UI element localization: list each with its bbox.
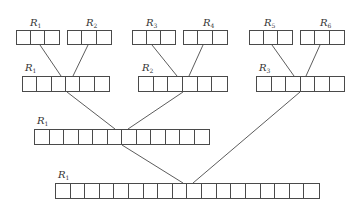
run-cell (158, 184, 173, 198)
run-cell (133, 31, 147, 44)
merge-edge-l1-r5-to-l2-r3 (272, 45, 294, 76)
run-label-subscript: 5 (272, 22, 276, 29)
run-cell (286, 77, 301, 91)
run-box-l2-r2 (138, 76, 228, 92)
run-box-l2-r3 (256, 76, 345, 92)
run-cell (184, 31, 198, 44)
run-label-l1-r3: R3 (146, 18, 157, 29)
run-label-letter: R (203, 17, 211, 28)
run-cell (301, 77, 316, 91)
run-box-l4-r1 (55, 183, 320, 199)
merge-edge-l1-r4-to-l2-r2 (189, 45, 203, 76)
merge-tree-diagram: R1R2R3R4R5R6R1R2R3R1R1 (0, 0, 357, 219)
merge-edge-l1-r1-to-l2-r1 (40, 45, 61, 76)
run-cell (64, 130, 79, 144)
run-label-l2-r2: R2 (142, 63, 153, 74)
run-label-letter: R (142, 62, 150, 73)
merge-edge-l1-r2-to-l2-r1 (73, 45, 88, 76)
run-label-l4-r1: R1 (58, 170, 69, 181)
run-cell (195, 130, 210, 144)
run-cell (304, 184, 319, 198)
run-cell (173, 184, 188, 198)
run-cell (261, 184, 276, 198)
run-cell (35, 130, 50, 144)
run-label-letter: R (25, 62, 33, 73)
run-box-l1-r1 (16, 30, 60, 45)
run-cell (213, 31, 227, 44)
run-cell (31, 31, 45, 44)
run-label-subscript: 1 (66, 174, 70, 181)
run-cell (37, 77, 51, 91)
run-label-subscript: 2 (150, 67, 154, 74)
run-box-l2-r1 (22, 76, 110, 92)
run-cell (85, 184, 100, 198)
merge-edge-l1-r3-to-l2-r2 (152, 45, 177, 76)
run-cell (97, 31, 111, 44)
run-cell (147, 31, 161, 44)
run-cell (264, 31, 278, 44)
run-label-subscript: 2 (94, 22, 98, 29)
run-cell (257, 77, 272, 91)
run-cell (212, 77, 227, 91)
run-cell (82, 31, 96, 44)
run-cell (290, 184, 305, 198)
run-label-letter: R (259, 62, 267, 73)
run-cell (272, 77, 287, 91)
run-label-subscript: 1 (33, 67, 37, 74)
run-cell (122, 130, 137, 144)
run-cell (217, 184, 232, 198)
run-label-letter: R (320, 17, 328, 28)
run-cell (187, 184, 202, 198)
run-box-l1-r3 (132, 30, 176, 45)
run-label-l3-r1: R1 (37, 116, 48, 127)
run-label-l2-r3: R3 (259, 63, 270, 74)
run-box-l1-r4 (183, 30, 228, 45)
merge-edge-l2-r1-to-l3-r1 (67, 92, 115, 129)
run-cell (315, 31, 329, 44)
run-label-subscript: 3 (154, 22, 158, 29)
run-label-l1-r1: R1 (30, 18, 41, 29)
run-cell (151, 130, 166, 144)
run-cell (80, 77, 94, 91)
run-label-letter: R (86, 17, 94, 28)
run-box-l1-r2 (67, 30, 112, 45)
run-cell (23, 77, 37, 91)
run-cell (56, 184, 71, 198)
run-cell (330, 31, 344, 44)
run-label-letter: R (58, 169, 66, 180)
run-cell (180, 130, 195, 144)
run-label-letter: R (30, 17, 38, 28)
run-cell (154, 77, 169, 91)
merge-edge-l2-r2-to-l3-r1 (128, 92, 183, 129)
run-cell (45, 31, 59, 44)
run-cell (137, 130, 152, 144)
run-cell (50, 130, 65, 144)
merge-edge-l3-r1-to-l4-r1 (122, 145, 183, 183)
run-cell (108, 130, 123, 144)
run-cell (168, 77, 183, 91)
run-label-l1-r6: R6 (320, 18, 331, 29)
run-cell (66, 77, 80, 91)
run-label-l1-r5: R5 (264, 18, 275, 29)
run-cell (250, 31, 264, 44)
run-label-subscript: 1 (38, 22, 42, 29)
run-label-subscript: 4 (211, 22, 215, 29)
run-cell (198, 31, 212, 44)
run-cell (231, 184, 246, 198)
run-cell (68, 31, 82, 44)
run-box-l1-r5 (249, 30, 293, 45)
run-label-letter: R (146, 17, 154, 28)
run-box-l1-r6 (300, 30, 345, 45)
run-label-subscript: 3 (267, 67, 271, 74)
run-cell (100, 184, 115, 198)
run-cell (301, 31, 315, 44)
run-label-l1-r4: R4 (203, 18, 214, 29)
run-cell (275, 184, 290, 198)
run-cell (79, 130, 94, 144)
run-cell (246, 184, 261, 198)
run-cell (114, 184, 129, 198)
run-cell (95, 77, 109, 91)
run-cell (315, 77, 330, 91)
run-label-letter: R (264, 17, 272, 28)
run-cell (278, 31, 292, 44)
